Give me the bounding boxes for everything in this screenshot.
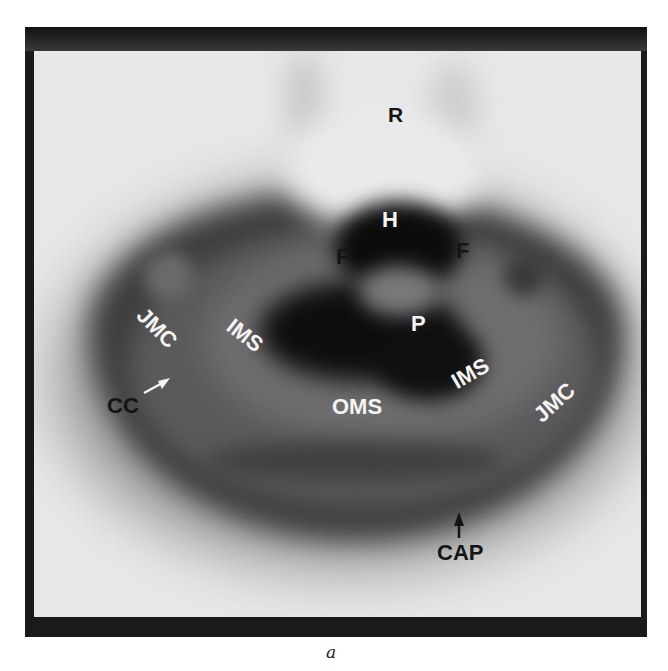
- cc-arrow-icon: [144, 378, 170, 393]
- cap-arrow-icon: [454, 512, 464, 538]
- figure-caption: a: [326, 642, 336, 662]
- annotation-arrows: [0, 0, 668, 671]
